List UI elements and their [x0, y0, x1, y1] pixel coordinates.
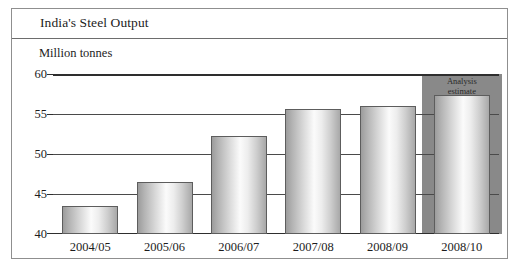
- y-tick-mark-40: [47, 233, 53, 234]
- chart-figure: India's Steel Output Million tonnes 4045…: [11, 8, 508, 259]
- y-tick-mark-50: [47, 154, 53, 155]
- plot-area: 4045505560 Analysisestimate: [53, 74, 499, 234]
- x-tick-label-2005-06: 2005/06: [144, 240, 185, 255]
- y-tick-label-60: 60: [35, 67, 48, 82]
- y-tick-label-50: 50: [35, 147, 48, 162]
- x-tick-label-2004-05: 2004/05: [70, 240, 111, 255]
- chart-title-band: India's Steel Output: [12, 9, 507, 39]
- y-tick-mark-45: [47, 194, 53, 195]
- bar-2005-06: [137, 182, 193, 234]
- x-axis-labels: 2004/052005/062006/072007/082008/092008/…: [53, 240, 497, 260]
- estimate-annotation: Analysisestimate: [422, 77, 502, 96]
- estimate-annotation-line2: estimate: [422, 87, 502, 97]
- bar-2008-09: [360, 106, 416, 234]
- y-tick-mark-55: [47, 114, 53, 115]
- y-tick-label-45: 45: [35, 187, 48, 202]
- gridline-50: [53, 154, 499, 155]
- bar-2006-07: [211, 136, 267, 234]
- bar-2007-08: [285, 109, 341, 234]
- x-tick-label-2008-10: 2008/10: [441, 240, 482, 255]
- y-tick-label-40: 40: [35, 227, 48, 242]
- x-tick-label-2007-08: 2007/08: [293, 240, 334, 255]
- bar-2004-05: [62, 206, 118, 234]
- y-tick-label-55: 55: [35, 107, 48, 122]
- gridline-55: [53, 114, 499, 115]
- y-axis-label: Million tonnes: [39, 46, 112, 61]
- plot-region: Million tonnes 4045505560 Analysisestima…: [12, 40, 507, 258]
- gridline-40: [53, 233, 499, 234]
- bar-2008-10: [434, 95, 490, 234]
- gridline-60: [53, 74, 499, 76]
- page-title: India's Steel Output: [40, 15, 149, 31]
- x-tick-label-2008-09: 2008/09: [367, 240, 408, 255]
- gridline-45: [53, 194, 499, 195]
- x-tick-label-2006-07: 2006/07: [218, 240, 259, 255]
- y-tick-mark-60: [47, 74, 53, 75]
